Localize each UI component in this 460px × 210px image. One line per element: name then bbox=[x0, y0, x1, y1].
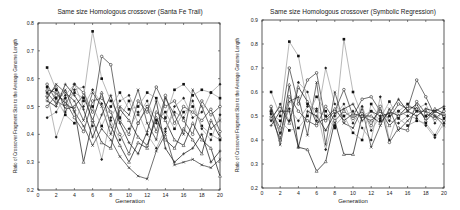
x-tick-label: 16 bbox=[181, 192, 187, 198]
x-axis-label: Generation bbox=[338, 198, 368, 204]
x-tick-label: 12 bbox=[368, 190, 374, 196]
y-tick-label: 0.2 bbox=[27, 187, 34, 193]
x-tick-label: 16 bbox=[405, 190, 411, 196]
y-tick-label: 0.6 bbox=[27, 76, 34, 82]
x-tick-label: 18 bbox=[199, 192, 205, 198]
chart-title: Same size Homologous crossover (Symbolic… bbox=[270, 8, 436, 16]
chart-title: Same size Homologous crossover (Santa Fe… bbox=[57, 8, 202, 16]
chart-santa-fe-trail: Same size Homologous crossover (Santa Fe… bbox=[0, 0, 230, 210]
y-tick-label: 0.7 bbox=[251, 65, 258, 71]
x-tick-label: 14 bbox=[387, 190, 393, 196]
y-tick-label: 0.2 bbox=[251, 185, 258, 191]
x-tick-label: 20 bbox=[441, 190, 447, 196]
x-tick-label: 6 bbox=[91, 192, 94, 198]
x-tick-label: 6 bbox=[315, 190, 318, 196]
y-tick-label: 0.9 bbox=[251, 17, 258, 23]
y-tick-label: 0.3 bbox=[27, 159, 34, 165]
y-tick-label: 0.8 bbox=[27, 20, 34, 26]
x-tick-label: 2 bbox=[55, 192, 58, 198]
x-tick-label: 10 bbox=[126, 192, 132, 198]
x-tick-label: 2 bbox=[279, 190, 282, 196]
y-tick-label: 0.3 bbox=[251, 161, 258, 167]
x-tick-label: 8 bbox=[333, 190, 336, 196]
x-tick-label: 4 bbox=[297, 190, 300, 196]
plot-area: 024681012141618200.20.30.40.50.60.70.80.… bbox=[251, 17, 447, 196]
y-tick-label: 0.4 bbox=[251, 137, 258, 143]
x-tick-label: 12 bbox=[144, 192, 150, 198]
plot-area: 024681012141618200.20.30.40.50.60.70.8 bbox=[27, 20, 223, 198]
x-tick-label: 20 bbox=[217, 192, 223, 198]
y-tick-label: 0.5 bbox=[27, 104, 34, 110]
y-axis-label: Ratio of Crossover Fragment Size to the … bbox=[13, 38, 18, 173]
x-tick-label: 18 bbox=[423, 190, 429, 196]
x-tick-label: 4 bbox=[73, 192, 76, 198]
x-tick-label: 10 bbox=[350, 190, 356, 196]
x-axis-label: Generation bbox=[115, 198, 145, 204]
y-tick-label: 0.6 bbox=[251, 89, 258, 95]
chart-symbolic-regression: Same size Homologous crossover (Symbolic… bbox=[230, 0, 460, 210]
x-tick-label: 14 bbox=[163, 192, 169, 198]
y-tick-label: 0.8 bbox=[251, 41, 258, 47]
y-tick-label: 0.5 bbox=[251, 113, 258, 119]
x-tick-label: 0 bbox=[37, 192, 40, 198]
series-line bbox=[47, 84, 220, 162]
y-axis-label: Ratio of Crossover Fragment Size to the … bbox=[235, 37, 240, 172]
x-tick-label: 0 bbox=[261, 190, 264, 196]
x-tick-label: 8 bbox=[109, 192, 112, 198]
y-tick-label: 0.4 bbox=[27, 131, 34, 137]
y-tick-label: 0.7 bbox=[27, 48, 34, 54]
